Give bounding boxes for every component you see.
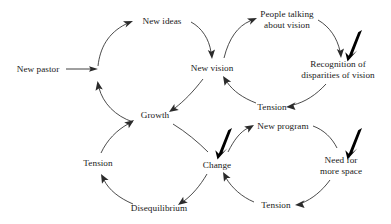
node-change: Change xyxy=(203,160,231,170)
node-need-for-space-line1: Need for xyxy=(325,155,358,165)
node-people-talking-line2: about vision xyxy=(264,20,310,30)
arrow-need-for-space-to-tension-change xyxy=(295,180,330,208)
node-need-for-space-line2: more space xyxy=(320,166,362,176)
arrow-growth-to-entry xyxy=(96,81,134,122)
arrow-new-vision-to-growth xyxy=(169,79,203,112)
node-people-talking-line1: People talking xyxy=(260,9,314,19)
arrow-recognition-to-tension-vision xyxy=(286,84,326,110)
arrow-entry-to-new-ideas xyxy=(98,21,133,66)
arrow-change-to-new-program xyxy=(228,125,254,152)
arrow-tension-growth-to-growth xyxy=(101,120,134,153)
arrow-growth-to-change xyxy=(173,124,208,152)
arrow-new-ideas-to-new-vision xyxy=(191,22,215,59)
node-new-vision: New vision xyxy=(191,63,234,73)
node-recognition-line2: disparities of vision xyxy=(301,70,375,80)
arrow-tension-change-to-change xyxy=(223,172,254,202)
arrow-tension-vision-to-new-vision xyxy=(223,76,256,103)
arrow-change-to-disequilibrium xyxy=(178,174,207,205)
node-tension-change-loop: Tension xyxy=(261,200,290,210)
node-new-ideas: New ideas xyxy=(143,16,182,26)
causal-loop-diagram: New pastor New ideas New vision People t… xyxy=(0,0,391,224)
node-new-pastor: New pastor xyxy=(17,64,60,74)
node-new-program: New program xyxy=(257,121,308,131)
node-growth: Growth xyxy=(141,110,169,120)
arrow-people-talking-to-recognition xyxy=(318,20,344,58)
emphasis-arrow-change xyxy=(215,128,232,160)
node-tension-growth-loop: Tension xyxy=(83,158,112,168)
arrow-new-vision-to-people-talking xyxy=(224,18,257,58)
emphasis-arrow-recognition xyxy=(345,30,362,62)
arrow-new-pastor-to-loop xyxy=(66,66,98,72)
arrow-new-program-to-need-for-space xyxy=(313,126,337,148)
node-recognition-line1: Recognition of xyxy=(310,59,366,69)
diagram-canvas xyxy=(0,0,391,224)
arrow-disequilibrium-to-tension-growth xyxy=(101,174,133,204)
node-tension-vision-loop: Tension xyxy=(257,102,286,112)
node-disequilibrium: Disequilibrium xyxy=(131,203,187,213)
arrow-growth-to-tension-vision-tail xyxy=(183,96,204,118)
